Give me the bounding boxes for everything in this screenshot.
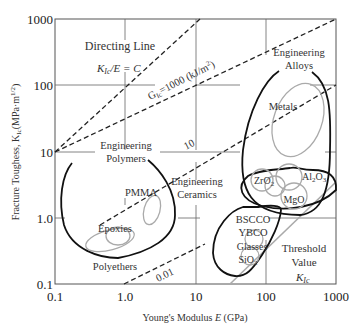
svg-text:1000: 1000	[27, 12, 53, 27]
g001-label: 0.01	[154, 266, 175, 284]
g10-label: 10	[182, 137, 196, 152]
bscco-label: BSCCO	[236, 214, 271, 225]
svg-text:10: 10	[40, 145, 53, 160]
svg-text:1.0: 1.0	[117, 289, 133, 304]
directing-line-label: Directing Line	[85, 39, 155, 53]
eng-poly-label-2: Polymers	[106, 153, 146, 164]
svg-text:0.1: 0.1	[37, 277, 53, 292]
ashby-chart: Directing Line KIc/E = C GIc=1000 (kJ/m2…	[0, 0, 359, 330]
svg-text:10: 10	[190, 289, 203, 304]
x-axis-ticks: 0.1 1.0 10 100 1000	[47, 289, 349, 304]
metals-label: Metals	[269, 101, 298, 112]
eng-cer-label-2: Ceramics	[177, 189, 217, 200]
directing-eq-label: KIc/E = C	[96, 62, 141, 76]
pmma-label: PMMA	[125, 187, 158, 198]
epoxies-label: Epoxies	[98, 223, 132, 234]
threshold-label-1: Threshold	[282, 242, 327, 254]
y-axis-ticks: 1000 100 10 1.0 0.1	[27, 12, 53, 292]
svg-text:100: 100	[34, 78, 54, 93]
g1000-label: GIc=1000 (kJ/m2)	[145, 57, 217, 103]
al2o3-label: Al2O3	[302, 171, 327, 184]
svg-text:100: 100	[256, 289, 276, 304]
polyethers-label: Polyethers	[93, 261, 137, 272]
eng-cer-label-1: Engineering	[171, 176, 223, 187]
eng-alloys-label-1: Engineering	[273, 47, 325, 58]
polymers-region	[61, 160, 175, 258]
eng-alloys-label-2: Alloys	[285, 60, 313, 71]
y-axis-title: Fracture Toughess, KIc(MPa·m1/2)	[9, 84, 23, 221]
svg-text:1000: 1000	[323, 289, 349, 304]
metals-ellipse	[262, 76, 333, 164]
ybco-label: YBCO	[238, 227, 268, 238]
threshold-label-2: Value	[291, 256, 316, 268]
threshold-k-label: KIc	[295, 271, 310, 285]
x-axis-title: Young's Modulus E (GPa)	[143, 312, 248, 324]
mgo-label: MgO	[283, 194, 304, 205]
eng-poly-label-1: Engineering	[100, 140, 152, 151]
glasses-label: Glasses	[237, 241, 268, 252]
svg-text:1.0: 1.0	[37, 211, 53, 226]
